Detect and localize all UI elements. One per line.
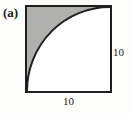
quarter-circle-diagram (27, 7, 110, 91)
bottom-side-dimension-label: 10 (25, 95, 112, 107)
geometry-figure: (a) 10 10 (0, 0, 131, 114)
square-outline (25, 5, 112, 93)
shaded-region (27, 7, 110, 91)
right-side-dimension-label: 10 (113, 46, 129, 58)
figure-part-label: (a) (3, 5, 18, 21)
